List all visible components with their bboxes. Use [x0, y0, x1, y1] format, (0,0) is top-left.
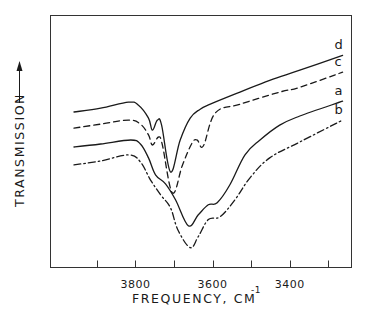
x-tick-label: 3600: [198, 278, 228, 291]
up-arrow-icon: [17, 61, 23, 71]
x-axis-tick-labels: 380036003400: [120, 278, 304, 291]
series-line-b: [74, 120, 343, 248]
plot-frame: [51, 16, 352, 268]
y-axis-title: TRANSMISSION: [12, 61, 27, 208]
series-line-c: [74, 72, 343, 193]
x-axis-title-superscript: -1: [251, 285, 261, 295]
x-axis-title-text: FREQUENCY, CM: [132, 291, 256, 306]
series-line-a: [74, 101, 343, 226]
series-label-d: d: [335, 37, 343, 52]
y-axis-title-text: TRANSMISSION: [12, 93, 27, 208]
x-tick-label: 3400: [275, 278, 305, 291]
series-labels: dcab: [335, 37, 343, 117]
series-line-d: [74, 55, 343, 172]
series-label-a: a: [335, 83, 343, 98]
ir-spectrum-chart: 380036003400 dcab FREQUENCY, CM -1 TRANS…: [0, 0, 365, 328]
x-axis-title: FREQUENCY, CM -1: [132, 285, 261, 306]
series-lines: [74, 55, 343, 247]
x-tick-label: 3800: [120, 278, 150, 291]
x-axis-ticks: [98, 261, 329, 268]
series-label-c: c: [335, 54, 342, 69]
series-label-b: b: [335, 102, 343, 117]
